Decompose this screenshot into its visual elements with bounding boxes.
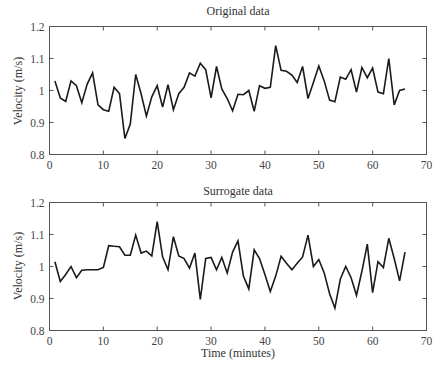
x-axis-label: Time (minutes)	[201, 346, 275, 360]
x-tick-label: 60	[367, 335, 379, 347]
y-tick-label: 1	[39, 85, 45, 97]
y-tick-label: 0.8	[30, 325, 45, 337]
x-tick-label: 30	[205, 335, 217, 347]
panel-original-data: Original data Velocity (m/s) 01020304050…	[11, 4, 433, 171]
y-tick-label: 0.9	[30, 117, 45, 129]
x-tick-label: 30	[205, 159, 217, 171]
chart-title-original: Original data	[207, 4, 271, 18]
y-tick-label: 1	[39, 261, 45, 273]
y-tick-label: 0.8	[30, 149, 45, 161]
y-axis-label-original: Velocity (m/s)	[11, 57, 25, 125]
y-tick-label: 1.1	[30, 53, 45, 65]
x-tick-label: 0	[47, 335, 53, 347]
chart-title-surrogate: Surrogate data	[203, 184, 273, 198]
figure: Original data Velocity (m/s) 01020304050…	[0, 0, 444, 371]
x-tick-label: 40	[259, 335, 271, 347]
data-line-original	[55, 46, 405, 139]
x-tick-label: 50	[313, 335, 325, 347]
plot-frame-original	[50, 27, 427, 155]
x-tick-label: 20	[151, 335, 163, 347]
x-tick-label: 60	[367, 159, 379, 171]
x-tick-label: 20	[151, 159, 163, 171]
x-tick-label: 10	[98, 159, 110, 171]
axis-ticks-original: 0102030405060700.80.911.11.2	[30, 21, 432, 171]
x-tick-label: 70	[421, 335, 433, 347]
x-tick-label: 40	[259, 159, 271, 171]
x-tick-label: 70	[421, 159, 433, 171]
axis-ticks-surrogate: 0102030405060700.80.911.11.2	[30, 197, 432, 347]
x-tick-label: 50	[313, 159, 325, 171]
y-tick-label: 1.2	[30, 21, 45, 33]
y-tick-label: 0.9	[30, 293, 45, 305]
panel-surrogate-data: Surrogate data Velocity (m/s) 0102030405…	[11, 184, 433, 360]
x-tick-label: 10	[98, 335, 110, 347]
x-tick-label: 0	[47, 159, 53, 171]
y-axis-label-surrogate: Velocity (m/s)	[11, 232, 25, 300]
data-line-surrogate	[55, 222, 405, 308]
y-tick-label: 1.2	[30, 197, 45, 209]
y-tick-label: 1.1	[30, 229, 45, 241]
